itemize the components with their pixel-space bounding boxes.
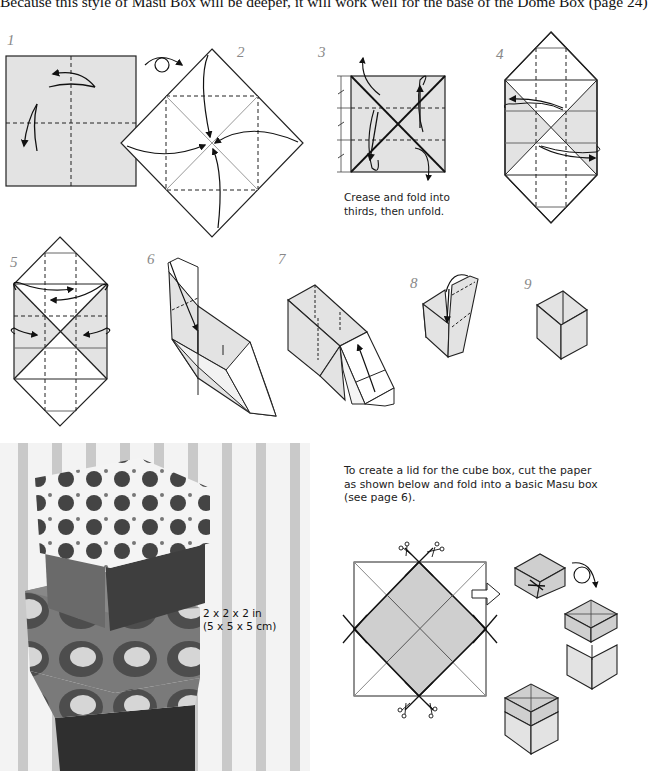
lid-cutting-diagram	[0, 0, 622, 771]
